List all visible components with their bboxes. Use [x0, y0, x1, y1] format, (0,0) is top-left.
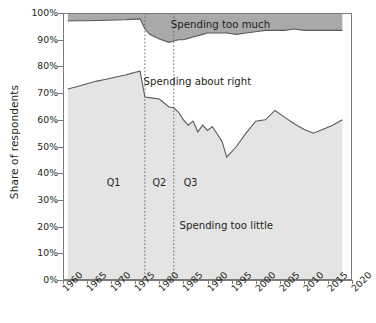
period-label-q2: Q2: [153, 177, 167, 188]
period-label-q1: Q1: [107, 177, 121, 188]
label-spending-too-little: Spending too little: [179, 220, 273, 231]
y-tick-label: 60%: [18, 115, 58, 124]
y-tick-mark: [58, 13, 63, 14]
y-tick-label: 30%: [18, 195, 58, 204]
y-tick-mark: [58, 173, 63, 174]
y-tick-label: 90%: [18, 35, 58, 44]
y-tick-mark: [58, 253, 63, 254]
y-tick-mark: [58, 40, 63, 41]
period-label-q3: Q3: [184, 177, 198, 188]
y-tick-mark: [58, 66, 63, 67]
y-tick-mark: [58, 120, 63, 121]
y-tick-label: 50%: [18, 142, 58, 151]
label-spending-too-much: Spending too much: [171, 19, 270, 30]
label-spending-about-right: Spending about right: [144, 76, 252, 87]
plot-area: Spending too much Spending about right S…: [63, 13, 352, 280]
y-tick-label: 40%: [18, 168, 58, 177]
plot-frame-border: [63, 13, 352, 280]
y-tick-label: 0%: [18, 275, 58, 284]
x-tick-label: 2020: [349, 269, 374, 294]
y-tick-mark: [58, 280, 63, 281]
y-tick-mark: [58, 147, 63, 148]
y-tick-mark: [58, 227, 63, 228]
y-tick-label: 20%: [18, 222, 58, 231]
y-tick-mark: [58, 200, 63, 201]
y-tick-label: 70%: [18, 88, 58, 97]
chart-container: Share of respondents 0%10%20%30%40%50%60…: [0, 0, 376, 323]
y-tick-label: 100%: [18, 8, 58, 17]
y-tick-label: 80%: [18, 61, 58, 70]
y-tick-mark: [58, 93, 63, 94]
y-tick-label: 10%: [18, 248, 58, 257]
y-axis-tick-labels: 0%10%20%30%40%50%60%70%80%90%100%: [14, 0, 58, 323]
